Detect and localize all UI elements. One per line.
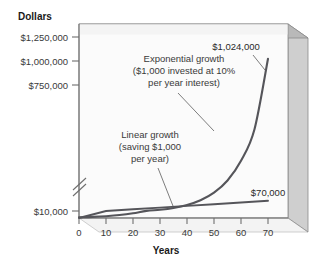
- x-tick-label-50: 50: [209, 227, 220, 238]
- exp-annot-line-1: Exponential growth: [144, 53, 225, 64]
- y-axis-title: Dollars: [18, 11, 52, 22]
- y-tick-label-750000: $750,000: [28, 80, 68, 91]
- x-tick-label-20: 20: [128, 227, 139, 238]
- x-tick-label-30: 30: [155, 227, 166, 238]
- lin-end-value-label: $70,000: [251, 187, 285, 198]
- growth-comparison-chart: $1,250,000 $1,000,000 $750,000 $10,000 D…: [0, 0, 322, 264]
- x-tick-label-70: 70: [263, 227, 274, 238]
- plot-face-shade: [80, 25, 288, 35]
- x-axis-title: Years: [153, 245, 180, 256]
- x-tick-label-40: 40: [182, 227, 193, 238]
- exp-annot-line-2: ($1,000 invested at 10%: [133, 65, 236, 76]
- panel-right-face: [288, 24, 308, 232]
- x-tick-label-0: 0: [76, 227, 81, 238]
- y-tick-label-1000000: $1,000,000: [20, 56, 68, 67]
- lin-annot-line-2: (saving $1,000: [119, 141, 181, 152]
- exp-end-value-label: $1,024,000: [212, 41, 260, 52]
- chart-container: $1,250,000 $1,000,000 $750,000 $10,000 D…: [0, 0, 322, 264]
- linear-end-label-group: $70,000: [251, 187, 285, 198]
- y-tick-label-10000: $10,000: [34, 206, 68, 217]
- lin-annot-line-3: per year): [131, 153, 169, 164]
- panel-base-face: [79, 218, 308, 232]
- lin-annot-line-1: Linear growth: [121, 129, 179, 140]
- x-tick-label-60: 60: [236, 227, 247, 238]
- y-tick-label-1250000: $1,250,000: [20, 32, 68, 43]
- x-tick-label-10: 10: [101, 227, 112, 238]
- exp-annot-line-3: per year interest): [148, 77, 220, 88]
